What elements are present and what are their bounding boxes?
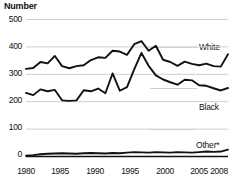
data-lines — [26, 41, 228, 156]
chart-plot-area — [0, 0, 232, 186]
line-series-white — [26, 41, 228, 69]
line-series-black — [26, 53, 228, 101]
gridlines — [26, 20, 228, 130]
line-series-other — [26, 150, 228, 156]
chart-container: Number 500 400 300 200 100 0 1980 1985 1… — [0, 0, 232, 186]
